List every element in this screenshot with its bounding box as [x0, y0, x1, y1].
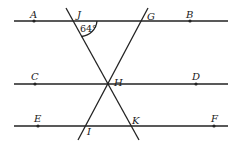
point-label: B [185, 9, 193, 20]
point-k: K [131, 115, 140, 126]
point-label: J [75, 9, 82, 20]
point-label: D [191, 71, 200, 82]
point-label: I [86, 126, 92, 137]
point-h: H [113, 77, 123, 88]
point-dot [36, 124, 39, 127]
point-dot [194, 82, 197, 85]
point-label: E [33, 113, 42, 124]
point-label: G [147, 11, 155, 22]
point-dot [33, 82, 36, 85]
geometry-diagram: 64° A B C D E F J G H I K [0, 0, 237, 147]
point-label: K [131, 115, 140, 126]
point-label: A [29, 9, 37, 20]
transversal-jk [66, 8, 139, 140]
point-i: I [86, 126, 92, 137]
point-label: H [113, 77, 123, 88]
point-label: F [210, 113, 219, 124]
point-label: C [31, 71, 39, 82]
point-dot [212, 124, 215, 127]
angle-label-64: 64° [80, 23, 97, 34]
point-j: J [75, 9, 82, 20]
point-g: G [147, 11, 155, 22]
